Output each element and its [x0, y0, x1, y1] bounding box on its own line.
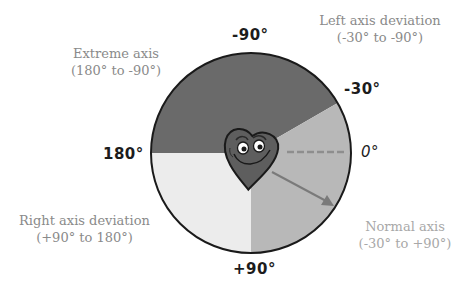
- label-180: 180°: [103, 145, 144, 163]
- region-right-range: (+90° to 180°): [12, 229, 157, 246]
- region-normal-title: Normal axis: [355, 218, 455, 235]
- label-zero: 0°: [361, 143, 379, 161]
- region-extreme-title: Extreme axis: [60, 45, 172, 62]
- region-left-label: Left axis deviation (-30° to -90°): [305, 12, 455, 46]
- region-extreme-label: Extreme axis (180° to -90°): [60, 45, 172, 79]
- region-right-title: Right axis deviation: [12, 212, 157, 229]
- label-minus-90: -90°: [232, 26, 269, 44]
- region-right-label: Right axis deviation (+90° to 180°): [12, 212, 157, 246]
- axis-diagram: -90° -30° 0° +90° 180° Extreme axis (180…: [0, 0, 458, 289]
- region-left-range: (-30° to -90°): [305, 29, 455, 46]
- label-plus-90: +90°: [233, 260, 276, 278]
- region-left-title: Left axis deviation: [305, 12, 455, 29]
- region-extreme-range: (180° to -90°): [60, 62, 172, 79]
- region-normal-label: Normal axis (-30° to +90°): [355, 218, 455, 252]
- label-minus-30: -30°: [344, 80, 381, 98]
- region-normal-range: (-30° to +90°): [355, 235, 455, 252]
